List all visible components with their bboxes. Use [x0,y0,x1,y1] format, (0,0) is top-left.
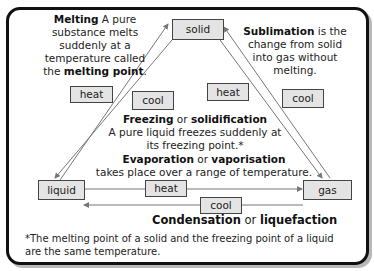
melting-description: Melting A pure substance melts suddenly … [20,13,170,78]
sublimation-term: Sublimation [243,25,314,37]
cool-label-freezing: cool [132,91,174,110]
vaporisation-term: vaporisation [211,153,285,165]
sublimation-line2: change from solid [230,38,360,51]
melting-line4: temperature called [20,52,170,65]
melting-line1: A pure [99,13,137,25]
melting-line5-prefix: the [43,65,64,77]
melting-point-term: melting point [64,65,144,77]
freezing-term: Freezing [123,113,174,125]
state-gas: gas [303,180,352,200]
evaporation-or: or [194,153,211,165]
footnote-line2: are the same temperature. [25,245,365,258]
freezing-or: or [174,113,191,125]
cool-label-deposition: cool [282,89,324,108]
freezing-line3: its freezing point.* [100,139,290,152]
footnote: *The melting point of a solid and the fr… [25,232,365,258]
cool-label-condensation: cool [200,197,242,214]
state-solid: solid [172,19,224,40]
state-liquid: liquid [38,180,85,200]
freezing-description: Freezing or solidification A pure liquid… [100,113,290,152]
sublimation-line3: into gas without [230,51,360,64]
condensation-term: Condensation [152,213,241,227]
heat-label-melting: heat [70,86,113,103]
melting-line2: substance melts [20,26,170,39]
melting-term: Melting [54,13,99,25]
solidification-term: solidification [191,113,267,125]
condensation-or: or [241,213,260,227]
footnote-line1: *The melting point of a solid and the fr… [25,232,365,245]
heat-label-sublimation: heat [207,83,249,101]
heat-label-evaporation: heat [145,180,187,197]
melting-line5-suffix: . [143,65,146,77]
melting-line3: suddenly at a [20,39,170,52]
evaporation-description: Evaporation or vaporisation takes place … [88,153,320,179]
evaporation-line2: takes place over a range of temperature. [88,166,320,179]
condensation-description: Condensation or liquefaction [152,214,352,227]
sublimation-description: Sublimation is the change from solid int… [230,25,360,77]
freezing-line2: A pure liquid freezes suddenly at [100,126,290,139]
sublimation-line1: is the [314,25,346,37]
liquefaction-term: liquefaction [260,213,337,227]
evaporation-term: Evaporation [123,153,194,165]
sublimation-line4: melting. [230,64,360,77]
